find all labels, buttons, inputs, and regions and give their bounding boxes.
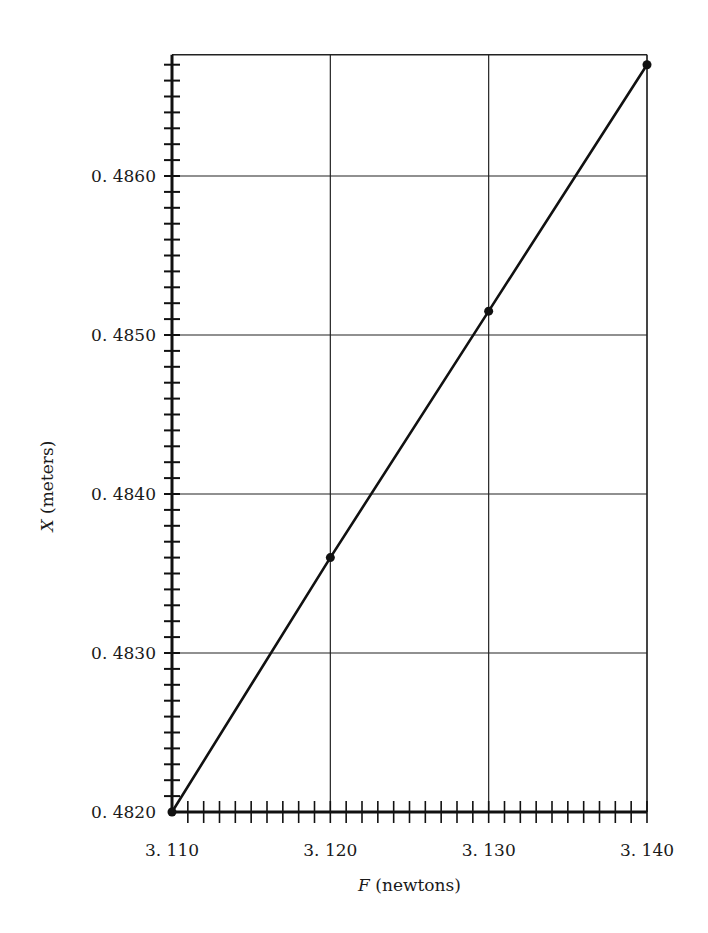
y-tick-label: 0. 4860 <box>91 166 156 186</box>
data-point <box>168 808 177 817</box>
data-line <box>172 65 647 812</box>
y-axis-label: X (meters) <box>37 441 57 534</box>
y-tick-label: 0. 4830 <box>91 643 156 663</box>
plot-area <box>164 55 652 823</box>
chart-canvas: 0. 48200. 48300. 48400. 48500. 48603. 11… <box>0 0 708 933</box>
data-point <box>643 60 652 69</box>
y-tick-label: 0. 4820 <box>91 802 156 822</box>
x-tick-label: 3. 130 <box>462 840 516 860</box>
x-axis-label: F (newtons) <box>357 875 461 895</box>
y-tick-label: 0. 4840 <box>91 484 156 504</box>
x-tick-label: 3. 120 <box>303 840 357 860</box>
x-tick-label: 3. 110 <box>145 840 199 860</box>
y-tick-label: 0. 4850 <box>91 325 156 345</box>
x-tick-label: 3. 140 <box>620 840 674 860</box>
data-point <box>484 307 493 316</box>
data-point <box>326 553 335 562</box>
